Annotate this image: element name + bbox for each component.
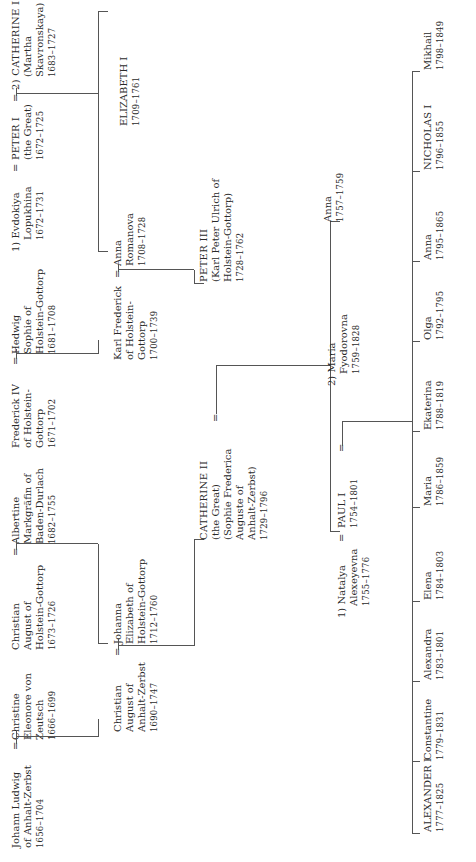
person-christian-august-anhalt: Christian August of Anhalt-Zerbst 1690–1…: [112, 662, 160, 732]
descent-line: [194, 270, 195, 284]
descent-line: [412, 601, 420, 602]
descent-line: [98, 719, 99, 737]
person-anna-1757: Anna 1757–1759: [322, 173, 346, 222]
descent-line: [16, 543, 98, 544]
person-paul-i: PAUL I 1754–1801: [336, 479, 360, 528]
descent-line: [412, 72, 413, 834]
person-christian-august-holstein: Christian August of Holstein-Gottorp 167…: [10, 565, 58, 650]
person-anna-romanova: Anna Romanova 1708–1728: [112, 213, 148, 266]
descent-line: [342, 421, 412, 422]
descent-line: [118, 269, 194, 270]
person-maria-fyodorovna: 2) Maria Fyodorovna 1759–1828: [326, 314, 362, 386]
person-elizabeth-i: ELIZABETH I 1709–1761: [118, 57, 142, 126]
descent-line: [412, 833, 420, 834]
descent-line: [118, 645, 194, 646]
marriage-line: [118, 264, 119, 272]
marriage-line: [118, 638, 119, 650]
marriage-line: [16, 549, 17, 550]
descent-line: [98, 340, 99, 354]
person-alexandra: Alexandra 1783–1801: [422, 628, 446, 680]
descent-line: [216, 365, 330, 366]
marriage-line: [16, 730, 17, 744]
descent-line: [330, 531, 340, 532]
descent-line: [16, 736, 98, 737]
person-johann-ludwig: Johann Ludwig of Anhalt-Zerbst 1656–1704: [10, 765, 46, 848]
person-peter-iii: PETER III (Karl Peter Ulrich of Holstein…: [198, 179, 246, 282]
person-frederick-iv: Frederick IV of Holstein- Gottorp 1671–1…: [10, 384, 58, 448]
descent-line: [98, 12, 99, 252]
person-maria: Maria 1786–1859: [422, 457, 446, 506]
family-tree-diagram: Johann Ludwig of Anhalt-Zerbst 1656–1704…: [0, 0, 476, 862]
marriage-line: [16, 349, 17, 359]
person-christine: Christine Eleonore von Zeutsch 1666–1699: [10, 673, 58, 740]
marriage-line: [342, 422, 343, 446]
descent-line: [412, 681, 420, 682]
person-nicholas-i: NICHOLAS I 1796–1855: [422, 105, 446, 170]
descent-line: [412, 261, 420, 262]
marriage-symbol: =: [336, 534, 348, 542]
descent-line: [412, 507, 420, 508]
descent-line: [194, 540, 195, 646]
descent-line: [412, 171, 420, 172]
person-mikhail: Mikhail 1798–1849: [422, 21, 446, 70]
descent-line: [412, 431, 420, 432]
descent-line: [16, 93, 98, 94]
person-ekaterina: Ekaterina 1788–1819: [422, 380, 446, 430]
descent-line: [98, 251, 108, 252]
person-peter-i: PETER I (the Great) 1672–1725: [10, 104, 46, 160]
person-albertine: Albertine Markgräfin of Baden-Durlach 16…: [10, 468, 58, 544]
marriage-line: [216, 366, 217, 414]
marriage-symbol: =: [210, 414, 222, 422]
person-elena: Elena 1784–1803: [422, 551, 446, 600]
descent-line: [98, 11, 108, 12]
descent-line: [98, 544, 99, 644]
person-natalya: 1) Natalya Alexeyevna 1755–1776: [336, 548, 372, 618]
descent-line: [412, 761, 420, 762]
person-johanna: Johanna Elizabeth of Holstein-Gottorp 17…: [112, 559, 160, 644]
descent-line: [98, 643, 108, 644]
person-alexander-i: ALEXANDER I 1777–1825: [422, 758, 446, 832]
marriage-symbol: =: [10, 164, 22, 172]
descent-line: [16, 353, 98, 354]
person-constantine: Constantine 1779–1831: [422, 699, 446, 760]
person-hedwig-sophie: Hedwig Sophie of Holstein-Gottorp 1681–1…: [10, 269, 58, 354]
descent-line: [412, 71, 420, 72]
descent-line: [194, 283, 204, 284]
person-karl-frederick: Karl Frederick of Holstein- Gottorp 1700…: [112, 286, 160, 360]
person-olga: Olga 1792–1795: [422, 291, 446, 340]
person-evdokiya: 1) Evdokiya Lopukhina 1672–1731: [10, 186, 46, 252]
person-catherine-i: 2) CATHERINE I (Martha Skavronskaya) 168…: [10, 1, 58, 90]
marriage-line: [16, 88, 17, 96]
person-catherine-ii: CATHERINE II (the Great) (Sophie Frederi…: [198, 449, 270, 540]
person-anna-1795: Anna 1795–1865: [422, 211, 446, 260]
descent-line: [412, 341, 420, 342]
